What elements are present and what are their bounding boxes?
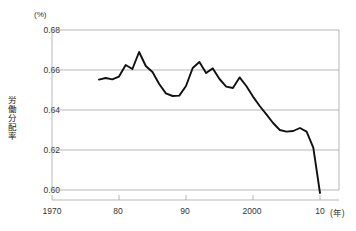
line-chart: (%) 労働分配率 0.68 0.66 0.64 0.62 0.60 1970 …: [0, 0, 356, 231]
plot-area: [0, 0, 356, 231]
axis-lines: [52, 30, 339, 200]
x-tick-marks: [52, 195, 320, 200]
series-line-labor-share: [99, 52, 320, 193]
gridlines: [52, 30, 339, 190]
